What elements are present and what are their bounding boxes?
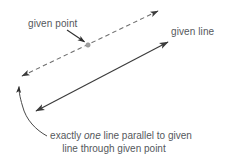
caption-text-after-emphasis: line parallel to given [101,130,192,141]
caption-emphasis-one: one [84,130,101,141]
given-point-dot [86,43,90,47]
diagram-canvas: given point given line exactly one line … [0,0,228,164]
label-given-point: given point [28,18,77,29]
given-point-pointer [67,30,85,42]
given-line-solid [36,42,168,111]
label-given-line: given line [171,26,214,37]
caption: exactly one line parallel to given line … [0,129,228,155]
caption-line-1: exactly one line parallel to given [0,129,228,142]
caption-line-2: line through given point [0,142,228,155]
caption-text-before-emphasis: exactly [50,130,84,141]
